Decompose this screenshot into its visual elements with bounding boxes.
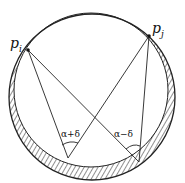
label-alpha-minus-delta: α−δ	[114, 129, 133, 139]
angle-arc-left	[62, 142, 78, 145]
point-pj	[147, 34, 151, 38]
point-pi	[26, 48, 30, 52]
label-alpha-plus-delta: α+δ	[61, 129, 80, 139]
label-pj: pj	[152, 20, 164, 39]
chords	[28, 36, 149, 162]
label-pi: pi	[10, 35, 22, 54]
angle-arc-right	[126, 145, 140, 149]
circle-diagram: pi pj α+δ α−δ	[0, 0, 185, 183]
